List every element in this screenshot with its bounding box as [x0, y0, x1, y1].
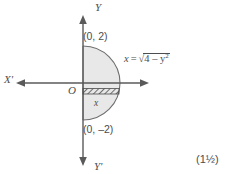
- marks-allocation: (1½): [196, 154, 219, 165]
- origin-label: O: [68, 85, 76, 96]
- coordinate-diagram: [0, 0, 239, 174]
- elemental-strip-hatched: [83, 89, 119, 95]
- strip-width-label: x: [94, 99, 98, 109]
- equation-lhs: x: [124, 53, 129, 64]
- radicand-text: 4 – y: [144, 53, 165, 64]
- radicand-exponent: 2: [165, 52, 169, 60]
- y-axis-up-arrowhead: [79, 15, 87, 24]
- x-axis-left-arrowhead: [16, 79, 25, 87]
- y-axis-label: Y: [95, 2, 101, 13]
- equation-equals-sign: =: [131, 53, 137, 64]
- point-label-bottom-intercept: (0, –2): [83, 124, 113, 135]
- point-label-top-intercept: (0, 2): [83, 31, 108, 42]
- x-axis-right-arrowhead: [140, 79, 149, 87]
- radicand-group: 4 – y2: [143, 53, 170, 65]
- curve-equation-label: x=√4 – y2: [124, 53, 170, 65]
- y-prime-axis-label: Y': [94, 161, 102, 172]
- x-prime-axis-label: X': [4, 74, 13, 85]
- y-axis-down-arrowhead: [79, 157, 87, 166]
